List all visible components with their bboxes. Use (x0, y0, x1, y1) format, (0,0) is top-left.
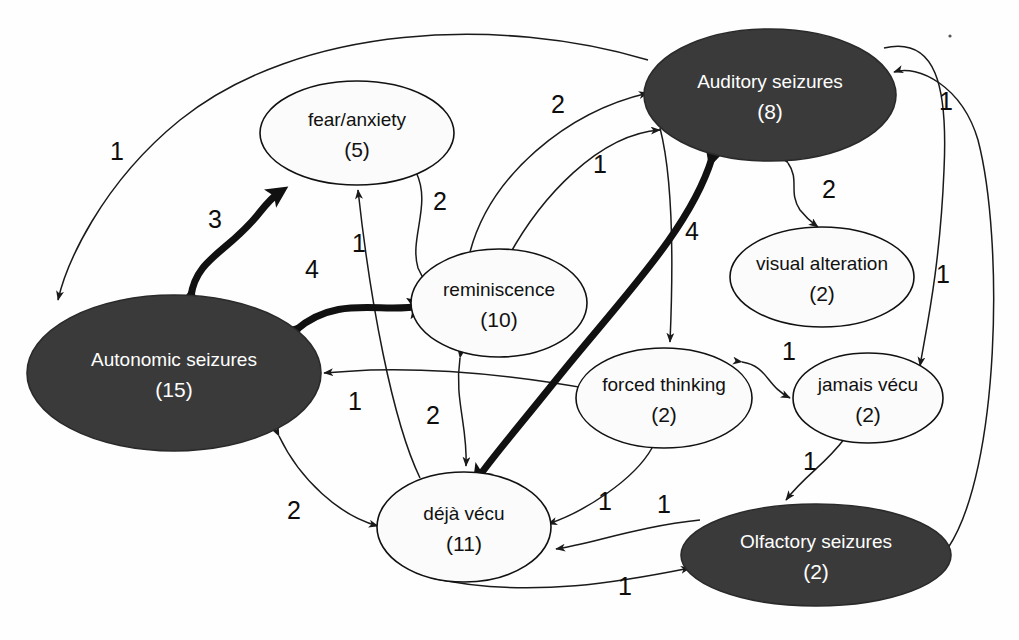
edge-weight-forced-deja: 1 (598, 487, 612, 515)
node-olfactory-seizures[interactable]: Olfactory seizures (2) (681, 504, 951, 606)
edge-forced-auditory (505, 130, 660, 263)
edge-weight-autonomic-deja: 2 (287, 496, 301, 524)
edge-weight-forced-jamais: 1 (782, 337, 796, 365)
edge-weight-deja-fear: 1 (352, 229, 366, 257)
node-visual-alteration-shape[interactable] (730, 227, 914, 327)
edge-weight-autonomic-reminiscence: 4 (305, 255, 319, 283)
node-autonomic-seizures-label: Autonomic seizures (91, 349, 257, 370)
edge-weight-reminiscence-deja: 2 (426, 401, 440, 429)
edge-weight-auditory-deja: 4 (685, 217, 699, 245)
node-visual-alteration[interactable]: visual alteration (2) (730, 227, 914, 327)
node-deja-vecu[interactable]: déjà vécu (11) (377, 472, 551, 582)
edge-deja-fear (358, 190, 420, 478)
node-auditory-seizures-label: Auditory seizures (697, 71, 843, 92)
edge-weight-fear-reminiscence: 2 (433, 187, 447, 215)
node-auditory-seizures[interactable]: Auditory seizures (8) (644, 29, 896, 161)
edge-weight-reminiscence-auditory: 2 (551, 90, 565, 118)
node-forced-thinking-count: (2) (651, 403, 677, 426)
edge-autonomic-reminiscence (296, 306, 420, 330)
node-olfactory-seizures-count: (2) (803, 560, 829, 583)
node-auditory-seizures-shape[interactable] (644, 29, 896, 161)
edge-weight-jamais-olfactory: 1 (803, 447, 817, 475)
edge-autonomic-fear (191, 192, 280, 296)
node-reminiscence-shape[interactable] (411, 249, 587, 357)
edge-olfactory-deja (556, 520, 700, 549)
node-jamais-vecu-shape[interactable] (793, 353, 943, 443)
node-autonomic-seizures-shape[interactable] (27, 295, 321, 451)
node-reminiscence-label: reminiscence (443, 279, 555, 300)
node-autonomic-seizures-count: (15) (155, 378, 192, 401)
scan-speck (948, 34, 951, 37)
edge-auditory-visual (788, 163, 818, 227)
node-olfactory-seizures-shape[interactable] (681, 504, 951, 606)
node-deja-vecu-label: déjà vécu (423, 503, 504, 524)
node-jamais-vecu-count: (2) (855, 403, 881, 426)
node-auditory-seizures-count: (8) (757, 100, 783, 123)
node-jamais-vecu[interactable]: jamais vécu (2) (793, 353, 943, 443)
node-visual-alteration-count: (2) (809, 282, 835, 305)
edge-weight-deja-olfactory: 1 (618, 572, 632, 600)
edge-weight-autonomic-fear: 3 (208, 205, 222, 233)
node-jamais-vecu-label: jamais vécu (817, 374, 918, 395)
network-diagram-svg: Auditory seizures (8) Autonomic seizures… (0, 0, 1019, 640)
node-reminiscence-count: (10) (480, 308, 517, 331)
edge-reminiscence-deja (458, 358, 466, 466)
edge-weight-auditory-visual: 2 (822, 175, 836, 203)
node-deja-vecu-shape[interactable] (377, 472, 551, 582)
node-forced-thinking-label: forced thinking (602, 374, 726, 395)
node-fear-anxiety[interactable]: fear/anxiety (5) (260, 81, 454, 185)
edge-weight-auditory-jamais: 1 (936, 260, 950, 288)
node-autonomic-seizures[interactable]: Autonomic seizures (15) (27, 295, 321, 451)
edge-weight-forced-autonomic: 1 (348, 387, 362, 415)
edge-weight-olfactory-deja: 1 (657, 490, 671, 518)
edge-weight-auditory-autonomic: 1 (110, 137, 124, 165)
node-olfactory-seizures-label: Olfactory seizures (740, 531, 892, 552)
node-forced-thinking[interactable]: forced thinking (2) (576, 348, 752, 448)
node-fear-anxiety-count: (5) (344, 138, 370, 161)
edge-olfactory-auditory-outer (894, 70, 994, 548)
node-forced-thinking-shape[interactable] (576, 348, 752, 448)
node-fear-anxiety-label: fear/anxiety (308, 109, 407, 130)
edge-weight-olfactory-auditory: 1 (939, 87, 953, 115)
node-layer: Auditory seizures (8) Autonomic seizures… (27, 29, 951, 606)
node-deja-vecu-count: (11) (446, 532, 482, 555)
node-fear-anxiety-shape[interactable] (260, 81, 454, 185)
node-reminiscence[interactable]: reminiscence (10) (411, 249, 587, 357)
diagram-canvas: Auditory seizures (8) Autonomic seizures… (0, 0, 1019, 640)
node-visual-alteration-label: visual alteration (756, 253, 888, 274)
edge-weight-forced-auditory: 1 (593, 150, 607, 178)
